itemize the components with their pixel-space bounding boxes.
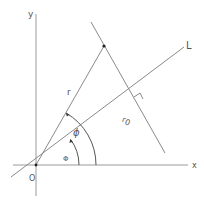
big-angle-label: ϕ — [73, 127, 80, 138]
y-axis-label: y — [28, 9, 34, 19]
perp-distance-label: r0 — [120, 115, 131, 128]
line-l-label: L — [186, 40, 192, 51]
small-angle-arc — [70, 139, 79, 165]
radius-label: r — [67, 87, 71, 97]
point-p — [102, 44, 105, 47]
origin-point — [35, 164, 38, 167]
x-axis-label: x — [192, 161, 197, 170]
small-angle-label: Φ — [63, 155, 69, 163]
diagram-canvas: y x O L r r0 ϕ Φ — [0, 0, 204, 206]
perpendicular-line — [91, 22, 165, 153]
origin-label: O — [29, 174, 35, 183]
right-angle-marker — [134, 93, 143, 99]
big-angle-arc — [66, 113, 96, 165]
line-l — [11, 47, 184, 177]
